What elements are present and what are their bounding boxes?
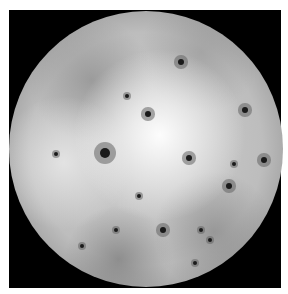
- volcanic-spot: [160, 227, 166, 233]
- volcanic-spot: [80, 244, 84, 248]
- volcanic-spot: [261, 157, 267, 163]
- volcanic-spot: [226, 183, 232, 189]
- volcanic-spot: [114, 228, 118, 232]
- volcanic-spot: [186, 155, 192, 161]
- moon-photo: [9, 11, 283, 287]
- volcanic-spot: [145, 111, 151, 117]
- volcanic-spot: [100, 148, 110, 158]
- volcanic-spot: [242, 107, 248, 113]
- volcanic-spot: [193, 261, 197, 265]
- volcanic-spot: [232, 162, 236, 166]
- volcanic-spot: [208, 238, 212, 242]
- volcanic-spot: [137, 194, 141, 198]
- volcanic-spot: [199, 228, 203, 232]
- volcanic-spot: [178, 59, 184, 65]
- volcanic-spot: [54, 152, 58, 156]
- volcanic-spot: [125, 94, 129, 98]
